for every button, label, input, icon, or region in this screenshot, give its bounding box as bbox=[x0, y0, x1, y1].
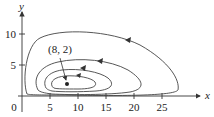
phase-portrait-diagram: 5 10 15 20 25 5 10 0 x y (8, 2) bbox=[0, 0, 214, 117]
orbit-3 bbox=[36, 60, 141, 95]
orbit-inner bbox=[52, 76, 96, 89]
x-tick-label: 15 bbox=[101, 101, 113, 113]
y-axis-label: y bbox=[18, 0, 24, 12]
x-tick-label: 25 bbox=[157, 101, 169, 113]
x-tick-label: 10 bbox=[73, 101, 85, 113]
x-tick-label: 5 bbox=[47, 101, 53, 113]
x-axis-label: x bbox=[204, 89, 210, 101]
y-tick-label: 5 bbox=[11, 59, 17, 71]
y-tick-label: 10 bbox=[5, 28, 17, 40]
origin-label: 0 bbox=[11, 101, 17, 113]
x-tick-label: 20 bbox=[129, 101, 141, 113]
direction-arrows bbox=[76, 37, 131, 78]
equilibrium-label: (8, 2) bbox=[48, 43, 72, 56]
equilibrium-point bbox=[65, 82, 69, 86]
